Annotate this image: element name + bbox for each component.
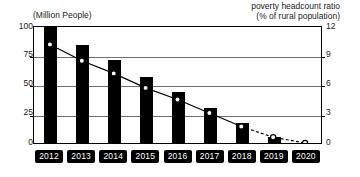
year-label-2014: 2014 <box>99 150 127 163</box>
year-label-2019: 2019 <box>260 150 288 163</box>
tickmark-right-6 <box>321 86 325 87</box>
ratio-marker-2013 <box>79 58 84 63</box>
tickmark-right-3 <box>321 116 325 117</box>
year-label-2013: 2013 <box>67 150 95 163</box>
tickmark-right-9 <box>321 57 325 58</box>
x-axis-year-labels: 201220132014201520162017201820192020 <box>33 150 322 164</box>
left-tick-0: 0 <box>7 138 33 147</box>
ratio-marker-2020 <box>302 140 307 143</box>
ratio-marker-2017 <box>207 110 212 115</box>
right-tick-6: 6 <box>326 79 350 88</box>
year-label-2012: 2012 <box>35 150 63 163</box>
year-label-2018: 2018 <box>228 150 256 163</box>
right-tick-9: 9 <box>326 50 350 59</box>
year-label-2020: 2020 <box>292 150 320 163</box>
ratio-marker-2016 <box>175 97 180 102</box>
ratio-marker-2018 <box>239 124 244 129</box>
right-axis-title: poverty headcount ratio (% of rural popu… <box>251 2 340 21</box>
right-axis-title-line2: (% of rural population) <box>251 12 340 22</box>
right-tick-3: 3 <box>326 108 350 117</box>
plot-area <box>33 26 322 144</box>
right-tick-0: 0 <box>326 138 350 147</box>
ratio-marker-2012 <box>47 42 52 47</box>
left-axis-title: (Million People) <box>33 11 92 21</box>
year-label-2017: 2017 <box>196 150 224 163</box>
year-label-2016: 2016 <box>164 150 192 163</box>
ratio-marker-2014 <box>111 71 116 76</box>
ratio-marker-2015 <box>143 85 148 90</box>
right-tick-12: 12 <box>326 22 350 31</box>
ratio-line-series <box>34 27 321 143</box>
left-tick-100: 100 <box>7 22 33 31</box>
ratio-marker-2019 <box>271 135 276 140</box>
year-label-2015: 2015 <box>131 150 159 163</box>
poverty-chart-figure: (Million People) poverty headcount ratio… <box>0 0 360 177</box>
